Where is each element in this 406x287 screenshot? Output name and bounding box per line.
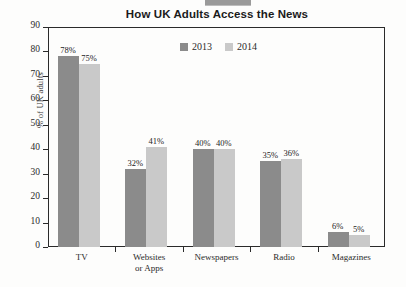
bar-value-label: 41% (139, 136, 173, 146)
bar-2014 (281, 159, 302, 247)
x-axis-label: Websitesor Apps (114, 252, 184, 274)
y-axis-tick-label: 60 (31, 93, 41, 103)
bar-group: 35%36% (250, 27, 317, 247)
y-axis-tick-label: 30 (31, 167, 41, 177)
y-axis-tick-label: 70 (31, 69, 41, 79)
y-axis-tick-label: 80 (31, 44, 41, 54)
bar-group: 40%40% (183, 27, 250, 247)
x-axis-label: TV (47, 252, 117, 263)
y-axis-tick-label: 50 (31, 118, 41, 128)
bar-group: 78%75% (48, 27, 115, 247)
bar-group: 6%5% (318, 27, 385, 247)
bar-value-label: 36% (274, 148, 308, 158)
bar-group: 32%41% (115, 27, 182, 247)
bar-2014 (349, 235, 370, 247)
y-axis-tick-label: 0 (35, 240, 40, 250)
y-axis-tick-label: 10 (31, 216, 41, 226)
bar-2014 (79, 64, 100, 247)
bar-2013 (328, 232, 349, 247)
y-axis-tick-label: 20 (31, 191, 41, 201)
bar-value-label: 75% (72, 53, 106, 63)
bar-chart: How UK Adults Access the News 2013 2014 … (0, 0, 406, 287)
bar-2014 (214, 149, 235, 247)
x-axis-label: Radio (249, 252, 319, 263)
bar-2014 (146, 147, 167, 247)
chart-title: How UK Adults Access the News (48, 8, 386, 20)
plot-area: 78%75%32%41%40%40%35%36%6%5% (48, 27, 385, 247)
y-axis-tick-label: 90 (31, 20, 41, 30)
bar-2013 (125, 169, 146, 247)
bar-value-label: 40% (207, 138, 241, 148)
y-axis-tick-mark (43, 247, 48, 248)
bar-2013 (193, 149, 214, 247)
x-axis-label: Magazines (316, 252, 386, 263)
scan-artifact (205, 0, 251, 6)
y-axis-tick-label: 40 (31, 142, 41, 152)
bar-value-label: 5% (342, 224, 376, 234)
x-axis-label: Newspapers (182, 252, 252, 263)
bar-2013 (58, 56, 79, 247)
bar-2013 (260, 161, 281, 247)
